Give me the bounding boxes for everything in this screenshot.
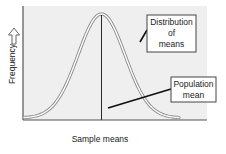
distribution-label-line3: means [159, 39, 185, 49]
distribution-label-line1: Distribution [150, 17, 193, 27]
distribution-figure: Distribution of means Population mean Sa… [0, 0, 226, 154]
distribution-annotation: Distribution of means [147, 15, 196, 52]
distribution-label-line2: of [168, 28, 176, 38]
y-axis-label-group: Frequency [7, 43, 17, 84]
up-arrow-icon [9, 28, 20, 44]
y-axis-label: Frequency [7, 43, 17, 84]
population-label-line2: mean [183, 90, 205, 100]
population-label-line1: Population [173, 79, 213, 89]
population-annotation: Population mean [171, 77, 216, 102]
x-axis-label: Sample means [72, 134, 129, 144]
